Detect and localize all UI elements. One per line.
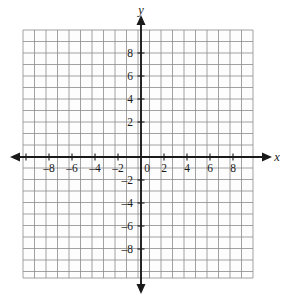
x-tick-label-4: 4 bbox=[184, 162, 190, 174]
x-tick-label--8: –8 bbox=[42, 162, 55, 174]
y-tick-label-2: 2 bbox=[127, 116, 133, 128]
x-tick-label-8: 8 bbox=[230, 162, 236, 174]
y-tick-label-8: 8 bbox=[127, 47, 133, 59]
x-tick-label-2: 2 bbox=[161, 162, 167, 174]
y-tick-label-4: 4 bbox=[127, 93, 133, 105]
x-tick-label-6: 6 bbox=[207, 162, 213, 174]
y-tick-label--2: –2 bbox=[121, 174, 134, 186]
y-tick-label-6: 6 bbox=[127, 70, 133, 82]
coordinate-grid-svg: –8 –6 –4 –2 2 4 6 8 8 6 4 2 –2 –4 –6 –8 … bbox=[0, 0, 291, 298]
x-axis-name-label: x bbox=[273, 150, 280, 164]
grid-lines-vertical bbox=[23, 30, 253, 278]
x-tick-label--6: –6 bbox=[65, 162, 78, 174]
y-axis-name-label: y bbox=[136, 3, 144, 17]
y-tick-label--8: –8 bbox=[121, 243, 134, 255]
x-tick-label--4: –4 bbox=[88, 162, 101, 174]
origin-label: 0 bbox=[144, 162, 150, 174]
y-tick-label--6: –6 bbox=[121, 220, 134, 232]
coordinate-plane-figure: –8 –6 –4 –2 2 4 6 8 8 6 4 2 –2 –4 –6 –8 … bbox=[0, 0, 291, 298]
x-tick-label--2: –2 bbox=[111, 162, 124, 174]
y-tick-label--4: –4 bbox=[121, 197, 134, 209]
